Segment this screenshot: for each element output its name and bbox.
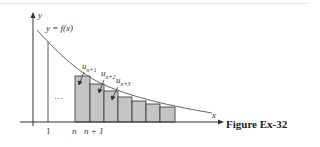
- tick-1: 1: [46, 126, 51, 136]
- tick-n: n: [72, 126, 77, 136]
- y-axis-label: y: [37, 10, 42, 20]
- curve-label: y = f(x): [45, 23, 73, 33]
- x-axis-label: x: [211, 110, 216, 120]
- ellipsis: ···: [54, 93, 63, 103]
- x-axis-arrow-icon: [218, 120, 224, 125]
- label-u-n1: un+1: [82, 61, 97, 73]
- label-u-n3: un+3: [116, 75, 131, 87]
- figure-caption: Figure Ex-32: [226, 118, 287, 130]
- label-u-n2: un+2: [101, 68, 116, 80]
- y-axis-arrow-icon: [31, 12, 36, 18]
- tick-n-plus-1: n + 1: [84, 126, 104, 136]
